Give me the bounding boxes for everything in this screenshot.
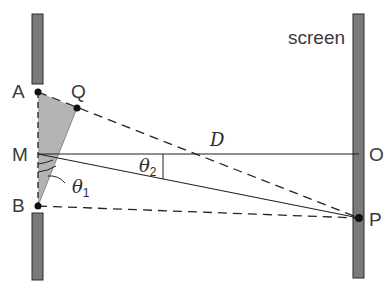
slit-barrier-top <box>32 14 43 84</box>
point-A-dot <box>35 89 42 96</box>
label-B: B <box>12 195 25 216</box>
screen-bar <box>353 14 364 278</box>
point-P-dot <box>355 214 363 222</box>
point-B-dot <box>35 203 42 210</box>
label-O: O <box>369 144 384 165</box>
label-theta2: θ2 <box>139 155 157 179</box>
label-Q: Q <box>71 81 86 102</box>
label-theta1: θ1 <box>72 176 90 200</box>
double-slit-diagram: screen A Q M B O P D θ1 θ2 <box>0 0 386 291</box>
label-P: P <box>369 209 382 230</box>
label-screen: screen <box>288 27 345 48</box>
label-A: A <box>12 81 25 102</box>
theta1-leader <box>48 176 65 183</box>
slit-barrier-bottom <box>32 213 43 280</box>
label-M: M <box>12 144 28 165</box>
point-Q-dot <box>74 105 81 112</box>
label-D: D <box>209 129 225 150</box>
